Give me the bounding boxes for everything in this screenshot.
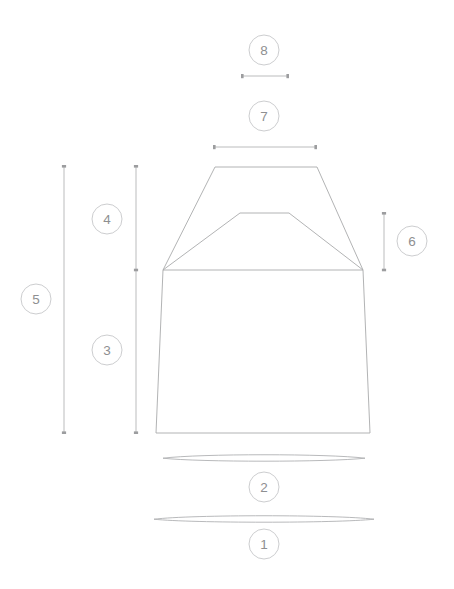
- callout-5-label: 5: [32, 292, 40, 307]
- callout-6[interactable]: 6: [397, 226, 427, 256]
- dimension-7-tick-left: [213, 145, 216, 149]
- dimension-8-tick-left: [241, 74, 244, 78]
- callout-7-label: 7: [260, 109, 268, 124]
- lower-hem-lens-shape: [154, 516, 374, 522]
- dimension-7-tick-right: [314, 145, 317, 149]
- callout-8[interactable]: 8: [249, 35, 279, 65]
- dimension-6-tick-top: [382, 212, 386, 215]
- dimension-line-4-3-group: [134, 165, 138, 434]
- callout-1-label: 1: [260, 537, 268, 552]
- garment-shape-group: [156, 167, 370, 433]
- dimension-line-8-group: [241, 74, 289, 78]
- dimension-5-tick-bottom: [62, 431, 66, 434]
- callout-3[interactable]: 3: [92, 335, 122, 365]
- callout-6-label: 6: [408, 234, 416, 249]
- upper-hem-lens-shape: [163, 455, 365, 461]
- garment-inner-yoke-path: [163, 213, 363, 270]
- callout-7[interactable]: 7: [249, 101, 279, 131]
- callout-2[interactable]: 2: [249, 472, 279, 502]
- callout-2-label: 2: [260, 480, 268, 495]
- dimension-line-6-group: [382, 212, 386, 271]
- dimension-4-3-tick-middle: [134, 269, 138, 272]
- technical-drawing-canvas: 8 7 4 6 5 3 2 1: [0, 0, 454, 589]
- callout-8-label: 8: [260, 43, 268, 58]
- garment-measurement-diagram: 8 7 4 6 5 3 2 1: [0, 0, 454, 589]
- dimension-3-tick-bottom: [134, 431, 138, 434]
- callout-4-label: 4: [103, 212, 111, 227]
- dimension-line-7-group: [213, 145, 317, 149]
- callout-1[interactable]: 1: [249, 529, 279, 559]
- dimension-5-tick-top: [62, 165, 66, 168]
- dimension-6-tick-bottom: [382, 269, 386, 272]
- callout-4[interactable]: 4: [92, 204, 122, 234]
- garment-outer-outline-path: [156, 167, 370, 433]
- dimension-8-tick-right: [286, 74, 289, 78]
- dimension-4-tick-top: [134, 165, 138, 168]
- callout-5[interactable]: 5: [21, 284, 51, 314]
- dimension-line-5-group: [62, 165, 66, 434]
- callout-3-label: 3: [103, 343, 111, 358]
